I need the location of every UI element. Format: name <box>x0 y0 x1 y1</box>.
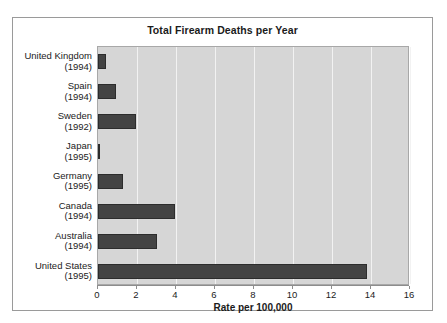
bar-row: Japan(1995) <box>98 137 410 167</box>
category-country: Australia <box>55 230 92 241</box>
bar-row: United States(1995) <box>98 256 410 286</box>
bar-row: United Kingdom(1994) <box>98 47 410 77</box>
x-axis-title: Rate per 100,000 <box>97 302 409 313</box>
x-tick-label: 2 <box>133 289 138 300</box>
bar[interactable] <box>98 264 367 279</box>
x-tick-label: 0 <box>94 289 99 300</box>
bar[interactable] <box>98 54 106 69</box>
category-country: Sweden <box>58 110 92 121</box>
x-tick-label: 10 <box>287 289 298 300</box>
x-tick-label: 16 <box>404 289 415 300</box>
x-tick-label: 6 <box>211 289 216 300</box>
category-year: (1994) <box>0 92 92 103</box>
category-label: Spain(1994) <box>0 81 92 102</box>
category-label: Canada(1994) <box>0 201 92 222</box>
category-label: Japan(1995) <box>0 141 92 162</box>
category-country: Germany <box>53 170 92 181</box>
category-label: United States(1995) <box>0 261 92 282</box>
chart-frame: Total Firearm Deaths per Year United Kin… <box>12 17 433 311</box>
bar[interactable] <box>98 84 116 99</box>
bar[interactable] <box>98 174 123 189</box>
category-label: Australia(1994) <box>0 231 92 252</box>
bar-row: Germany(1995) <box>98 167 410 197</box>
x-tick-label: 12 <box>326 289 337 300</box>
category-country: Canada <box>59 200 92 211</box>
category-year: (1995) <box>0 152 92 163</box>
plot-area: United Kingdom(1994)Spain(1994)Sweden(19… <box>97 46 409 285</box>
chart-title: Total Firearm Deaths per Year <box>13 24 432 36</box>
bar-row: Spain(1994) <box>98 77 410 107</box>
category-country: Japan <box>66 140 92 151</box>
category-country: Spain <box>68 80 92 91</box>
category-label: Sweden(1992) <box>0 111 92 132</box>
bar[interactable] <box>98 234 157 249</box>
category-label: United Kingdom(1994) <box>0 51 92 72</box>
category-label: Germany(1995) <box>0 171 92 192</box>
x-tick-label: 4 <box>172 289 177 300</box>
category-year: (1995) <box>0 181 92 192</box>
category-year: (1995) <box>0 271 92 282</box>
bar-row: Canada(1994) <box>98 196 410 226</box>
gridline <box>410 47 411 284</box>
x-tick-label: 8 <box>250 289 255 300</box>
bar-row: Sweden(1992) <box>98 107 410 137</box>
category-year: (1994) <box>0 211 92 222</box>
bar[interactable] <box>98 204 175 219</box>
x-tick-label: 14 <box>365 289 376 300</box>
bar[interactable] <box>98 144 100 159</box>
category-country: United States <box>35 260 92 271</box>
category-year: (1992) <box>0 122 92 133</box>
bar[interactable] <box>98 114 136 129</box>
category-year: (1994) <box>0 62 92 73</box>
category-country: United Kingdom <box>24 50 92 61</box>
bar-row: Australia(1994) <box>98 226 410 256</box>
category-year: (1994) <box>0 241 92 252</box>
